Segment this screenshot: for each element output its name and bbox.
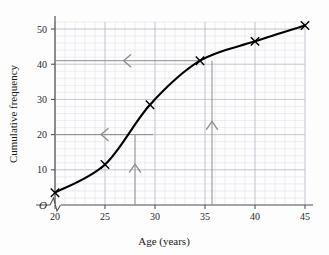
x-tick-label: 25: [100, 211, 110, 222]
chart-canvas: 2025303540451020304050 Age (years) Cumul…: [0, 0, 329, 255]
y-tick-label: 40: [37, 59, 47, 70]
x-axis-title: Age (years): [138, 235, 190, 248]
y-tick-label: 20: [37, 129, 47, 140]
x-tick-label: 30: [150, 211, 160, 222]
x-tick-label: 40: [250, 211, 260, 222]
x-tick-label: 35: [200, 211, 210, 222]
cumulative-frequency-chart: 2025303540451020304050 Age (years) Cumul…: [0, 0, 329, 255]
x-tick-label: 45: [300, 211, 310, 222]
y-tick-label: 50: [37, 24, 47, 35]
y-tick-label: 30: [37, 94, 47, 105]
origin-label: O: [39, 199, 47, 211]
x-tick-label: 20: [50, 211, 60, 222]
y-tick-label: 10: [37, 164, 47, 175]
y-axis-title: Cumulative frequency: [7, 64, 19, 163]
